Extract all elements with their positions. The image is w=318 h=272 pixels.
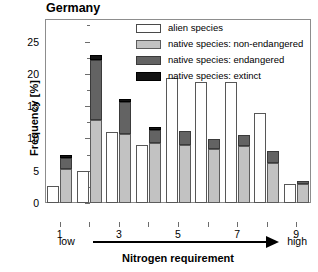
legend-item: native species: non-endangered [136,37,308,51]
bar-alien-species [284,184,296,203]
bar-segment-nonendangered [238,146,250,203]
y-axis-tick-label: 15 [5,100,39,112]
bar-segment-extinct [90,55,102,61]
x-axis-tick [119,222,120,227]
bar-segment-nonendangered [90,120,102,203]
bar-segment-nonendangered [60,169,72,203]
bar-segment-endangered [60,158,72,170]
y-axis-tick-label: 20 [5,68,39,80]
bar-segment-nonendangered [208,149,220,203]
bar-segment-endangered [90,60,102,120]
legend-item-label: native species: endangered [168,55,284,65]
legend-item: native species: extinct [136,69,308,83]
bar-native-species-stack [179,131,191,203]
chart-figure: Germany Frequency [%] 051015202513579 al… [0,0,318,272]
legend-item-label: native species: extinct [168,71,261,81]
bar-alien-species [195,82,207,203]
y-axis-tick-label: 5 [5,165,39,177]
legend-item: native species: endangered [136,53,308,67]
bar-alien-species [47,186,59,203]
bar-alien-species [254,113,266,203]
bar-alien-species [106,132,118,203]
x-axis-tick [237,222,238,227]
bar-segment-endangered [208,139,220,149]
x-axis-tick [60,222,61,227]
y-axis-tick-label: 25 [5,36,39,48]
arrow-line [93,241,268,243]
x-axis-label: Nitrogen requirement [45,252,311,264]
bar-segment-endangered [267,151,279,163]
bar-segment-extinct [149,127,161,130]
bar-native-species-stack [90,55,102,203]
bar-alien-species [225,82,237,203]
bar-native-species-stack [60,155,72,203]
bar-native-species-stack [297,181,309,203]
bar-segment-endangered [179,131,191,145]
bar-segment-nonendangered [149,143,161,203]
bar-segment-extinct [60,155,72,158]
bar-native-species-stack [238,135,250,203]
bar-segment-nonendangered [297,184,309,203]
legend-swatch-icon [136,72,161,81]
bar-segment-endangered [149,130,161,143]
nitrogen-gradient-annotation: low high [45,233,311,249]
legend-item-label: alien species [168,23,223,33]
y-axis-tick [85,203,90,204]
bar-native-species-stack [208,139,220,203]
y-axis-minor-tick [87,25,90,26]
legend-swatch-icon [136,24,161,33]
y-axis-tick-label: 0 [5,197,39,209]
legend-item-label: native species: non-endangered [168,39,303,49]
bar-segment-endangered [119,102,131,134]
chart-legend: alien speciesnative species: non-endange… [136,21,308,85]
bar-segment-nonendangered [267,163,279,203]
x-axis-tick [178,222,179,227]
x-axis-tick [208,222,209,227]
bar-native-species-stack [267,151,279,203]
bar-native-species-stack [149,127,161,203]
legend-swatch-icon [136,40,161,49]
x-axis-tick [296,222,297,227]
bar-alien-species [166,78,178,203]
bar-segment-nonendangered [119,134,131,203]
bar-segment-nonendangered [179,145,191,203]
arrow-low-label: low [59,235,75,247]
bar-native-species-stack [119,99,131,203]
legend-item: alien species [136,21,308,35]
x-axis-tick [267,222,268,227]
bar-segment-endangered [238,135,250,147]
chart-title: Germany [46,1,100,15]
legend-swatch-icon [136,56,161,65]
x-axis-tick [148,222,149,227]
x-axis-tick [89,222,90,227]
bar-alien-species [77,171,89,203]
bar-segment-extinct [119,99,131,102]
bar-segment-endangered [297,181,309,184]
arrow-high-label: high [287,235,307,247]
y-axis-tick [85,42,90,43]
y-axis-tick-label: 10 [5,132,39,144]
arrow-head-icon [266,236,279,248]
bar-alien-species [136,145,148,203]
